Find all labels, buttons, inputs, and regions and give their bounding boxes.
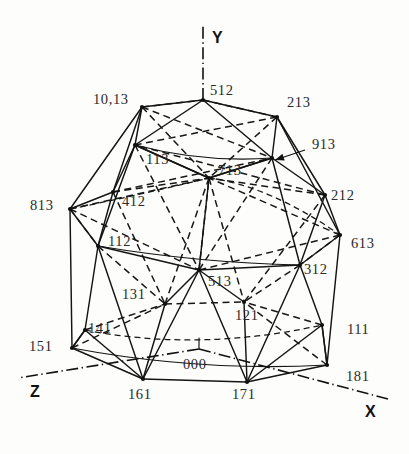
leader-arrowhead [275, 154, 285, 161]
vertex-label-112: 112 [108, 233, 131, 249]
origin-label: 000 [183, 356, 207, 372]
hidden-edge [70, 209, 199, 270]
hidden-edge [209, 178, 325, 195]
vertex-label-121: 121 [235, 307, 259, 323]
vertex-dot-1013 [140, 105, 144, 109]
vertex-label-171: 171 [232, 386, 256, 402]
solid-edge [165, 270, 199, 304]
solid-edge [72, 330, 85, 348]
hidden-edge [165, 302, 244, 304]
vertex-dot-113 [133, 143, 137, 147]
solid-edge [327, 235, 340, 365]
vertex-label-131: 131 [122, 286, 146, 302]
vertex-dot-312 [298, 263, 302, 267]
vertex-dot-161 [141, 377, 145, 381]
solid-edge [322, 325, 327, 365]
origin-label-group: 000 [183, 338, 207, 372]
vertex-dot-131 [163, 302, 167, 306]
vertex-label-181: 181 [346, 368, 370, 384]
solid-edge [70, 209, 72, 348]
vertex-dot-813 [68, 207, 72, 211]
vertex-dot-513 [197, 268, 201, 272]
solid-edge [143, 379, 247, 382]
vertex-label-512: 512 [210, 82, 234, 98]
diagram-root: 51210,1321311391371341281321261311231251… [0, 0, 409, 454]
hidden-band-curve [85, 325, 322, 340]
polyhedron-figure: 51210,1321311391371341281321261311231251… [0, 0, 409, 454]
vertex-dot-171 [245, 380, 249, 384]
vertex-dot-112 [96, 244, 100, 248]
solid-edge [272, 117, 277, 158]
vertex-dot-121 [242, 300, 246, 304]
solid-edge [70, 209, 98, 246]
solid-edge [277, 117, 325, 195]
vertex-label-913: 913 [312, 136, 336, 152]
vertex-label-613: 613 [351, 235, 375, 251]
vertex-dot-213 [275, 115, 279, 119]
vertex-dot-412 [111, 190, 115, 194]
solid-edge [203, 100, 272, 158]
vertex-dot-181 [325, 363, 329, 367]
vertex-dot-713 [207, 176, 211, 180]
solid-edge [247, 265, 300, 382]
axis-y-label: Y [212, 29, 223, 46]
vertex-dot-613 [338, 233, 342, 237]
vertex-dot-913 [270, 156, 274, 160]
vertex-label-161: 161 [128, 386, 152, 402]
vertex-dot-141 [83, 328, 87, 332]
vertex-dot-212 [323, 193, 327, 197]
vertex-label-151: 151 [29, 338, 53, 354]
vertex-label-113: 113 [146, 151, 169, 167]
vertex-dot-111 [320, 323, 324, 327]
vertex-dot-512 [201, 98, 205, 102]
axis-z-label: Z [30, 383, 40, 400]
vertex-label-111: 111 [347, 321, 369, 337]
vertex-label-213: 213 [287, 94, 311, 110]
axis-x-label: X [365, 403, 376, 420]
vertex-label-412: 412 [122, 193, 146, 209]
vertex-label-713: 713 [218, 162, 242, 178]
vertex-label-141: 141 [88, 320, 112, 336]
vertex-label-813: 813 [30, 197, 54, 213]
vertex-dot-151 [70, 346, 74, 350]
solid-edge [85, 246, 98, 330]
vertex-label-212: 212 [331, 187, 355, 203]
vertex-label-1013: 10,13 [93, 91, 129, 107]
vertex-label-312: 312 [304, 261, 328, 277]
vertex-label-513: 513 [208, 273, 232, 289]
solid-edge [300, 195, 325, 265]
